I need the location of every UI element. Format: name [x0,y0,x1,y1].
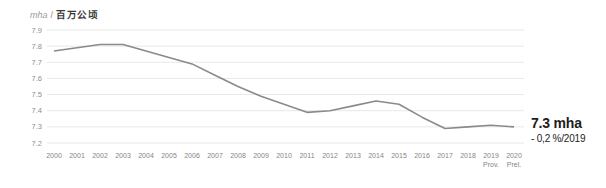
x-tick-year: 2002 [92,152,108,159]
y-tick-label: 7.8 [12,42,42,51]
annotation-change: - 0,2 %/2019 [531,133,585,145]
x-tick-year: 2018 [460,152,476,159]
x-tick-year: 2005 [161,152,177,159]
y-tick-label: 7.3 [12,122,42,131]
annotation-value: 7.3 mha [531,116,585,131]
x-tick-year: 2015 [391,152,407,159]
y-tick-label: 7.2 [12,139,42,148]
y-tick-label: 7.7 [12,58,42,67]
x-tick-year: 2010 [276,152,292,159]
x-tick-year: 2011 [299,152,314,159]
y-tick-label: 7.9 [12,26,42,35]
y-tick-label: 7.5 [12,90,42,99]
x-tick-year: 2020 [506,152,522,159]
x-tick-year: 2017 [437,152,453,159]
end-value-annotation: 7.3 mha - 0,2 %/2019 [531,116,585,145]
y-tick-label: 7.4 [12,106,42,115]
x-tick-year: 2016 [414,152,430,159]
x-tick-year: 2004 [138,152,154,159]
x-tick-year: 2008 [230,152,246,159]
y-tick-label: 7.6 [12,74,42,83]
x-tick-year: 2000 [46,152,62,159]
x-tick-label: 2020Prel. [501,151,527,169]
line-chart-figure: mha/百万公顷 7.97.87.77.67.57.47.37.2 200020… [0,0,606,188]
x-tick-year: 2006 [184,152,200,159]
x-tick-year: 2014 [368,152,384,159]
x-tick-year: 2007 [207,152,223,159]
trend-line [54,45,514,129]
x-tick-year: 2001 [69,152,85,159]
x-tick-note: Prel. [501,160,527,169]
x-tick-year: 2003 [115,152,131,159]
x-tick-year: 2013 [345,152,361,159]
x-tick-year: 2019 [483,152,499,159]
x-tick-year: 2012 [322,152,338,159]
x-tick-year: 2009 [253,152,269,159]
